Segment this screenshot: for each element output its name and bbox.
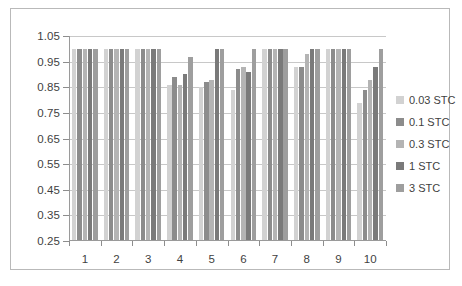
bar bbox=[262, 49, 266, 241]
legend-item: 1 STC bbox=[396, 155, 462, 177]
x-axis-tick-label: 1 bbox=[82, 253, 88, 265]
plot-area: 1.050.950.850.750.650.550.450.350.25 123… bbox=[69, 36, 386, 241]
bar bbox=[347, 49, 351, 241]
bar bbox=[93, 49, 97, 241]
x-axis-tick-label: 10 bbox=[364, 253, 377, 265]
bar bbox=[231, 90, 235, 241]
legend-item-label: 0.03 STC bbox=[409, 94, 455, 106]
bar bbox=[331, 49, 335, 241]
bar bbox=[220, 49, 224, 241]
bar bbox=[204, 82, 208, 241]
bar bbox=[246, 72, 250, 241]
y-axis-tick-label: 0.75 bbox=[37, 107, 60, 119]
bar bbox=[241, 67, 245, 241]
x-axis-tick-label: 9 bbox=[335, 253, 341, 265]
legend-swatch-icon bbox=[396, 162, 404, 170]
bar-group bbox=[132, 36, 164, 241]
bar bbox=[83, 49, 87, 241]
x-axis-tick bbox=[291, 241, 292, 246]
bar bbox=[146, 49, 150, 241]
bar bbox=[342, 49, 346, 241]
bar bbox=[120, 49, 124, 241]
bar bbox=[363, 90, 367, 241]
bar-group bbox=[196, 36, 228, 241]
x-axis-tick-label: 6 bbox=[240, 253, 246, 265]
bar bbox=[373, 67, 377, 241]
bar bbox=[209, 80, 213, 241]
y-axis-tick-label: 0.85 bbox=[37, 81, 60, 93]
x-axis-tick bbox=[132, 241, 133, 246]
x-axis-tick bbox=[323, 241, 324, 246]
x-axis-tick bbox=[259, 241, 260, 246]
x-axis-tick-label: 4 bbox=[177, 253, 183, 265]
bar bbox=[178, 85, 182, 241]
legend-swatch-icon bbox=[396, 184, 404, 192]
x-axis-tick bbox=[386, 241, 387, 246]
legend-item-label: 0.3 STC bbox=[409, 138, 449, 150]
bar bbox=[357, 103, 361, 241]
bar bbox=[151, 49, 155, 241]
x-axis-line bbox=[69, 240, 386, 241]
legend-item: 0.1 STC bbox=[396, 111, 462, 133]
bar bbox=[326, 49, 330, 241]
bar-group bbox=[101, 36, 133, 241]
x-axis-tick bbox=[196, 241, 197, 246]
x-axis-tick bbox=[101, 241, 102, 246]
bar bbox=[336, 49, 340, 241]
bar bbox=[77, 49, 81, 241]
y-axis-tick-label: 0.95 bbox=[37, 56, 60, 68]
x-axis-tick bbox=[354, 241, 355, 246]
y-axis-tick-label: 1.05 bbox=[37, 30, 60, 42]
x-axis-tick-label: 5 bbox=[208, 253, 214, 265]
y-axis-tick-label: 0.45 bbox=[37, 184, 60, 196]
bar bbox=[157, 49, 161, 241]
legend-swatch-icon bbox=[396, 140, 404, 148]
bar bbox=[273, 49, 277, 241]
bar bbox=[268, 49, 272, 241]
legend-swatch-icon bbox=[396, 96, 404, 104]
y-axis-tick-label: 0.65 bbox=[37, 133, 60, 145]
y-axis-tick-label: 0.55 bbox=[37, 158, 60, 170]
x-axis-tick bbox=[228, 241, 229, 246]
legend-item: 3 STC bbox=[396, 177, 462, 199]
bar bbox=[135, 49, 139, 241]
legend-swatch-icon bbox=[396, 118, 404, 126]
legend-item-label: 3 STC bbox=[409, 182, 440, 194]
bar-group bbox=[228, 36, 260, 241]
bar bbox=[236, 69, 240, 241]
bar bbox=[315, 49, 319, 241]
bar bbox=[278, 49, 282, 241]
bar bbox=[368, 80, 372, 241]
bar bbox=[283, 49, 287, 241]
bar bbox=[167, 85, 171, 241]
y-axis-tick-label: 0.35 bbox=[37, 209, 60, 221]
y-axis-tick-label: 0.25 bbox=[37, 235, 60, 247]
bar bbox=[172, 77, 176, 241]
bar-group bbox=[323, 36, 355, 241]
bar bbox=[141, 49, 145, 241]
bar bbox=[188, 57, 192, 242]
chart-frame: 1.050.950.850.750.650.550.450.350.25 123… bbox=[10, 8, 450, 270]
x-axis-tick bbox=[69, 241, 70, 246]
bar bbox=[72, 49, 76, 241]
bar bbox=[199, 87, 203, 241]
x-axis-tick-label: 8 bbox=[304, 253, 310, 265]
legend-item-label: 1 STC bbox=[409, 160, 440, 172]
y-axis-line bbox=[69, 36, 70, 241]
bar-group bbox=[354, 36, 386, 241]
bar bbox=[252, 49, 256, 241]
bar bbox=[114, 49, 118, 241]
legend-item: 0.03 STC bbox=[396, 89, 462, 111]
bar bbox=[125, 49, 129, 241]
bar bbox=[183, 74, 187, 241]
bar bbox=[109, 49, 113, 241]
x-axis-tick-label: 7 bbox=[272, 253, 278, 265]
bar-group bbox=[69, 36, 101, 241]
bar bbox=[88, 49, 92, 241]
bar bbox=[299, 67, 303, 241]
bar-group bbox=[291, 36, 323, 241]
bar-group bbox=[164, 36, 196, 241]
bar bbox=[294, 67, 298, 241]
bar bbox=[215, 49, 219, 241]
legend-item: 0.3 STC bbox=[396, 133, 462, 155]
